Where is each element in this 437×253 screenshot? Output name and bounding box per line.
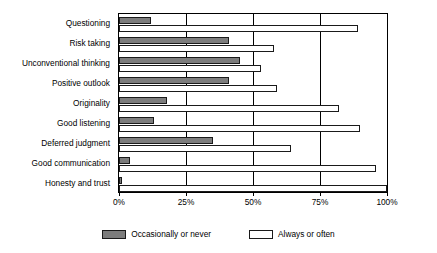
x-tick-mark bbox=[186, 193, 187, 196]
bar-occasionally-or-never bbox=[119, 57, 240, 64]
category-label: Questioning bbox=[0, 18, 110, 28]
bar-occasionally-or-never bbox=[119, 177, 122, 184]
bar-occasionally-or-never bbox=[119, 157, 130, 164]
horizontal-bar-chart: QuestioningRisk takingUnconventional thi… bbox=[0, 0, 437, 253]
bar-occasionally-or-never bbox=[119, 117, 154, 124]
plot-area bbox=[118, 13, 388, 193]
legend-item[interactable]: Always or often bbox=[249, 229, 335, 239]
x-tick-mark bbox=[320, 193, 321, 196]
x-tick-mark bbox=[119, 193, 120, 196]
bar-occasionally-or-never bbox=[119, 17, 151, 24]
category-axis: QuestioningRisk takingUnconventional thi… bbox=[0, 13, 114, 193]
category-label: Originality bbox=[0, 98, 110, 108]
bars-layer bbox=[119, 14, 387, 192]
category-label: Unconventional thinking bbox=[0, 58, 110, 68]
chart-legend: Occasionally or neverAlways or often bbox=[0, 224, 437, 244]
x-tick-label: 50% bbox=[245, 197, 262, 207]
legend-label: Occasionally or never bbox=[131, 229, 211, 239]
category-label: Positive outlook bbox=[0, 78, 110, 88]
legend-swatch-icon bbox=[102, 230, 126, 239]
bar-always-or-often bbox=[119, 185, 387, 192]
bar-always-or-often bbox=[119, 105, 339, 112]
bar-occasionally-or-never bbox=[119, 137, 213, 144]
category-label: Deferred judgment bbox=[0, 138, 110, 148]
bar-occasionally-or-never bbox=[119, 37, 229, 44]
bar-always-or-often bbox=[119, 85, 277, 92]
x-tick-mark bbox=[253, 193, 254, 196]
bar-occasionally-or-never bbox=[119, 77, 229, 84]
legend-label: Always or often bbox=[278, 229, 335, 239]
x-tick-mark bbox=[387, 193, 388, 196]
bar-always-or-often bbox=[119, 145, 291, 152]
bar-always-or-often bbox=[119, 45, 274, 52]
category-label: Risk taking bbox=[0, 38, 110, 48]
x-axis: 0%25%50%75%100% bbox=[118, 193, 388, 211]
x-tick-label: 25% bbox=[178, 197, 195, 207]
bar-always-or-often bbox=[119, 65, 261, 72]
legend-item[interactable]: Occasionally or never bbox=[102, 229, 211, 239]
category-label: Honesty and trust bbox=[0, 178, 110, 188]
x-tick-label: 0% bbox=[113, 197, 125, 207]
x-tick-label: 100% bbox=[376, 197, 397, 207]
x-tick-label: 75% bbox=[312, 197, 329, 207]
legend-swatch-icon bbox=[249, 230, 273, 239]
bar-occasionally-or-never bbox=[119, 97, 167, 104]
bar-always-or-often bbox=[119, 125, 360, 132]
bar-always-or-often bbox=[119, 25, 358, 32]
bar-always-or-often bbox=[119, 165, 376, 172]
category-label: Good listening bbox=[0, 118, 110, 128]
category-label: Good communication bbox=[0, 158, 110, 168]
